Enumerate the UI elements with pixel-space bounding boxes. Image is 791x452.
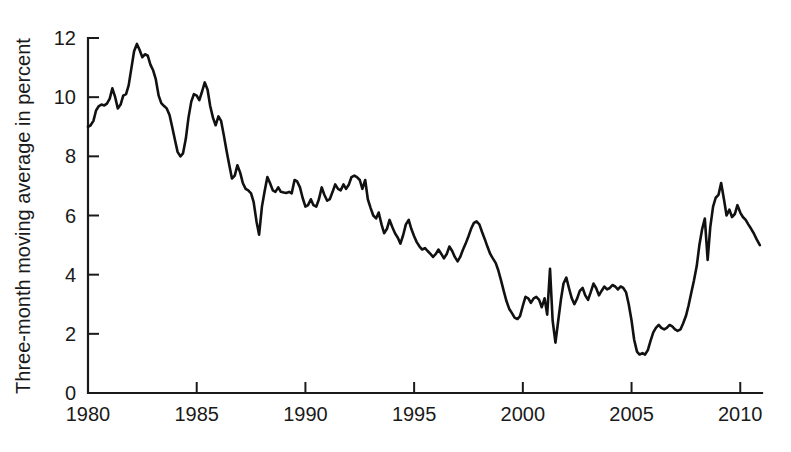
y-axis-tick-label: 8 [65, 145, 76, 167]
chart-figure: Three-month moving average in percent 02… [0, 0, 791, 452]
x-axis-ticks [197, 382, 741, 393]
x-axis-tick-label: 2000 [501, 403, 546, 425]
y-axis-tick-label: 12 [54, 27, 76, 49]
x-axis-tick-label: 2010 [718, 403, 763, 425]
x-axis-tick-label: 1980 [66, 403, 111, 425]
data-series-line [88, 44, 760, 355]
line-chart: Three-month moving average in percent 02… [0, 0, 791, 452]
y-axis-tick-label: 2 [65, 323, 76, 345]
y-axis-label: Three-month moving average in percent [12, 38, 34, 394]
y-axis-tick-label: 0 [65, 382, 76, 404]
y-axis-tick-label: 4 [65, 264, 76, 286]
y-axis-label-text: Three-month moving average in percent [12, 38, 34, 394]
x-axis-tick-label: 2005 [609, 403, 654, 425]
y-axis-ticks [88, 38, 99, 334]
axis-lines [88, 38, 762, 393]
y-axis-tick-label: 6 [65, 205, 76, 227]
x-axis-tick-labels: 1980198519901995200020052010 [66, 403, 763, 425]
x-axis-tick-label: 1985 [174, 403, 219, 425]
x-axis-tick-label: 1995 [392, 403, 437, 425]
y-axis-tick-label: 10 [54, 86, 76, 108]
y-axis-tick-labels: 024681012 [54, 27, 76, 404]
x-axis-tick-label: 1990 [283, 403, 328, 425]
